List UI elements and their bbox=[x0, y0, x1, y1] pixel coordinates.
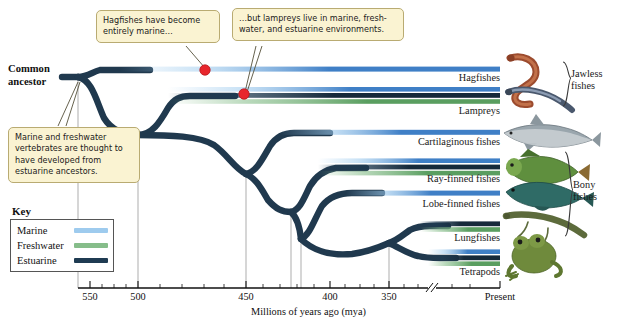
marker-hagfishes bbox=[200, 65, 210, 75]
habitat-shift-markers-layer bbox=[0, 0, 617, 326]
marker-lampreys bbox=[239, 89, 249, 99]
phylogeny-diagram: Common ancestor Hagfishes have become en… bbox=[0, 0, 617, 326]
